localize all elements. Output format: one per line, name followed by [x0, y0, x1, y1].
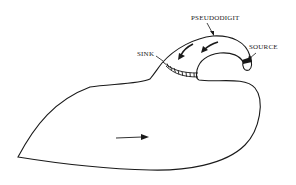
sink-label: SINK [137, 50, 154, 58]
body-movement-arrow [116, 134, 149, 140]
pseudodigit-flow-arrow-2 [201, 42, 218, 53]
pseudodigit-flow-arrow-1 [178, 44, 193, 60]
diagram-canvas [0, 0, 296, 185]
sink-band [163, 62, 198, 77]
pseudodigit-label: PSEUDODIGIT [191, 14, 239, 22]
source-label: SOURCE [249, 43, 278, 51]
sink-leader [156, 56, 163, 61]
pseudodigit-leader-arrowhead [210, 31, 214, 36]
